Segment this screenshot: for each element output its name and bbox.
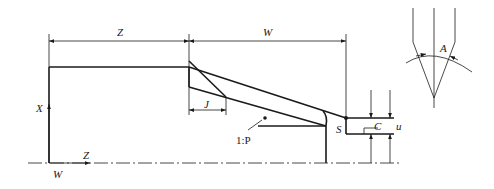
- taper-lower-line: [189, 87, 326, 126]
- start-point-label: S: [336, 123, 342, 135]
- x-axis-label: X: [35, 102, 44, 114]
- z-axis-label: Z: [83, 149, 90, 161]
- taper-leader-dot: [263, 116, 267, 120]
- c-dimension-label: C: [374, 120, 382, 132]
- tool-angle-label: A: [439, 42, 447, 54]
- cutting-tool: [406, 8, 472, 108]
- taper-leader-line: [248, 120, 262, 130]
- origin-w-label: W: [53, 168, 63, 180]
- taper-label: 1:P: [236, 134, 251, 146]
- j-dimension-label: J: [204, 98, 210, 110]
- thread-cycle-diagram: Z W X Z W J 1:P S C u A: [0, 0, 494, 189]
- thread-relief-curve: [323, 111, 327, 163]
- u-dimension-label: u: [396, 120, 402, 132]
- z-dimension-label: Z: [117, 26, 124, 38]
- w-dimension-label: W: [263, 26, 273, 38]
